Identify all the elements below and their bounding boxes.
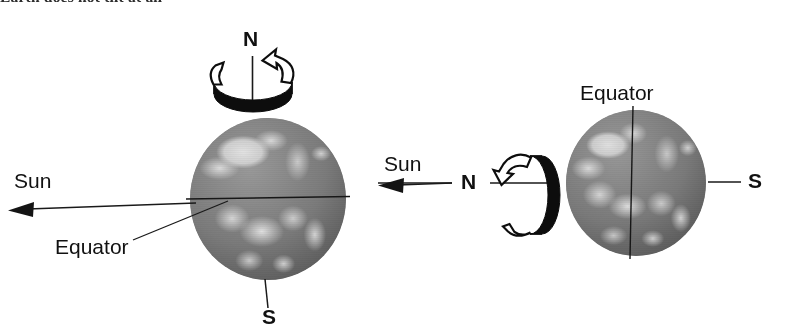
right-sun-label: Sun <box>384 153 421 174</box>
right-south-pole-label: S <box>748 170 762 191</box>
left-sun-arrow-head <box>8 202 34 217</box>
left-arrowhead-west <box>211 63 224 85</box>
right-band-black-side <box>530 156 560 234</box>
right-sun-arrow <box>378 178 452 193</box>
left-sun-arrow <box>8 202 196 217</box>
left-arrowhead-east <box>263 50 294 84</box>
left-equator-leader <box>133 201 228 240</box>
right-rotation-band <box>494 155 561 236</box>
right-sun-arrow-head <box>378 178 404 193</box>
left-equator-label: Equator <box>55 236 129 257</box>
left-sun-arrow-shaft <box>28 203 196 209</box>
left-sun-label: Sun <box>14 170 51 191</box>
left-equator-line <box>186 197 350 200</box>
right-north-pole-label: N <box>461 171 476 192</box>
left-axis-line-south <box>265 279 268 308</box>
right-arrowhead-bottom <box>503 224 531 236</box>
figure-canvas: Earth does not tilt at all <box>0 0 788 335</box>
left-south-pole-label: S <box>262 306 276 327</box>
left-north-pole-label: N <box>243 28 258 49</box>
right-equator-label: Equator <box>580 82 654 103</box>
right-equator-line <box>630 106 633 259</box>
right-arrowhead-top <box>494 155 532 185</box>
